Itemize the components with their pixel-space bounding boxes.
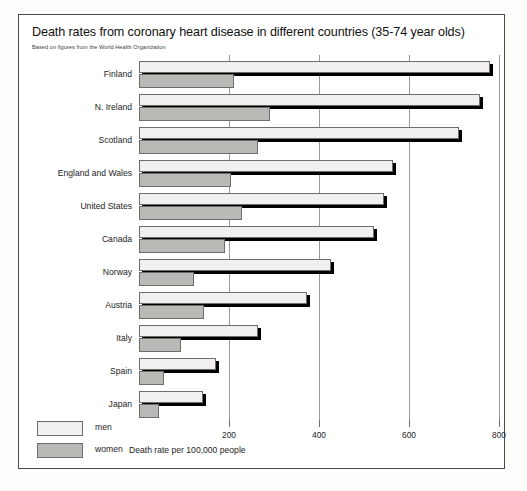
bar-women — [139, 272, 194, 286]
bar-row: N. Ireland — [139, 92, 499, 125]
bar-row: Spain — [139, 356, 499, 389]
chart-page: Death rates from coronary heart disease … — [0, 0, 527, 491]
bar-women — [139, 107, 270, 121]
bar-row: Canada — [139, 224, 499, 257]
x-tick-label: 600 — [402, 430, 416, 440]
bar-women — [139, 305, 204, 319]
x-tick — [499, 420, 500, 427]
category-label: Canada — [102, 235, 132, 244]
category-label: England and Wales — [58, 169, 132, 178]
x-tick — [319, 420, 320, 427]
category-label: Austria — [105, 301, 132, 310]
bar-row: Japan — [139, 389, 499, 422]
chart-title: Death rates from coronary heart disease … — [32, 25, 465, 39]
bar-men — [139, 160, 393, 172]
category-label: United States — [80, 202, 132, 211]
category-label: Scotland — [99, 136, 132, 145]
bar-row: Finland — [139, 59, 499, 92]
legend-swatch-women — [37, 443, 83, 458]
x-tick — [229, 420, 230, 427]
x-tick-label: 800 — [492, 430, 506, 440]
bar-men — [139, 292, 307, 304]
bar-row: Norway — [139, 257, 499, 290]
bar-row: England and Wales — [139, 158, 499, 191]
bar-men — [139, 226, 374, 238]
bar-women — [139, 338, 181, 352]
bar-men — [139, 259, 331, 271]
x-tick-label: 200 — [222, 430, 236, 440]
x-tick — [409, 420, 410, 427]
bar-men — [139, 193, 384, 205]
category-label: Japan — [109, 400, 132, 409]
bar-women — [139, 404, 159, 418]
bar-women — [139, 371, 164, 385]
bar-row: Italy — [139, 323, 499, 356]
chart-frame: Death rates from coronary heart disease … — [18, 14, 505, 469]
chart-subtitle: Based on figures from the World Health O… — [32, 44, 166, 50]
bar-men — [139, 325, 258, 337]
bar-men — [139, 61, 490, 73]
bar-row: Austria — [139, 290, 499, 323]
bar-men — [139, 127, 459, 139]
bar-men — [139, 391, 203, 403]
legend-swatch-men — [37, 421, 83, 436]
bar-row: United States — [139, 191, 499, 224]
legend-label: women — [95, 444, 123, 454]
category-label: N. Ireland — [95, 103, 132, 112]
x-axis-caption: Death rate per 100,000 people — [129, 445, 246, 455]
category-label: Spain — [110, 367, 132, 376]
category-label: Norway — [103, 268, 132, 277]
bar-women — [139, 74, 234, 88]
bar-women — [139, 173, 231, 187]
bar-men — [139, 94, 480, 106]
legend-label: men — [95, 422, 112, 432]
bar-row: Scotland — [139, 125, 499, 158]
bar-women — [139, 206, 242, 220]
plot-area: FinlandN. IrelandScotlandEngland and Wal… — [139, 55, 499, 420]
bar-women — [139, 239, 225, 253]
bar-women — [139, 140, 258, 154]
category-label: Italy — [116, 334, 132, 343]
x-tick-label: 400 — [312, 430, 326, 440]
gridline-800 — [499, 55, 500, 420]
category-label: Finland — [104, 70, 132, 79]
bar-men — [139, 358, 216, 370]
